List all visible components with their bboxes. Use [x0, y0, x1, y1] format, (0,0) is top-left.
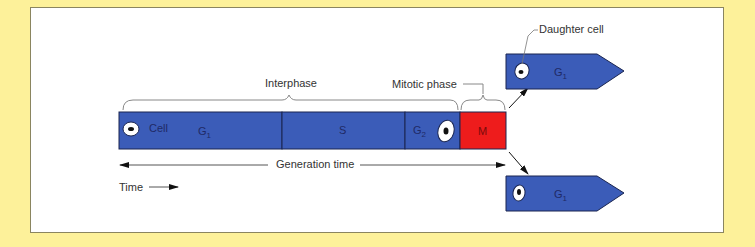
daughter-top-phase-label: G1: [554, 67, 567, 81]
cell-label: Cell: [149, 123, 168, 134]
interphase-brace: [123, 95, 458, 110]
generation-time-label: Generation time: [276, 159, 354, 170]
phase-s-label: S: [339, 125, 346, 136]
division-arrow-up: [509, 88, 528, 108]
phase-g2-label: G2: [413, 125, 426, 139]
daughter-bottom-phase-label: G1: [554, 189, 567, 203]
time-label: Time: [119, 182, 143, 193]
division-arrow-down: [509, 152, 528, 174]
cell-icon: [123, 122, 139, 136]
interphase-label: Interphase: [265, 78, 317, 89]
mitotic-leader: [463, 84, 483, 94]
daughter-cell-label: Daughter cell: [539, 24, 604, 35]
phase-g1-label: G1: [198, 126, 211, 140]
mitotic-phase-label: Mitotic phase: [392, 79, 457, 90]
cell-cycle-diagram: [0, 0, 755, 247]
phase-m-label: M: [478, 126, 487, 137]
mitotic-brace: [461, 95, 505, 110]
